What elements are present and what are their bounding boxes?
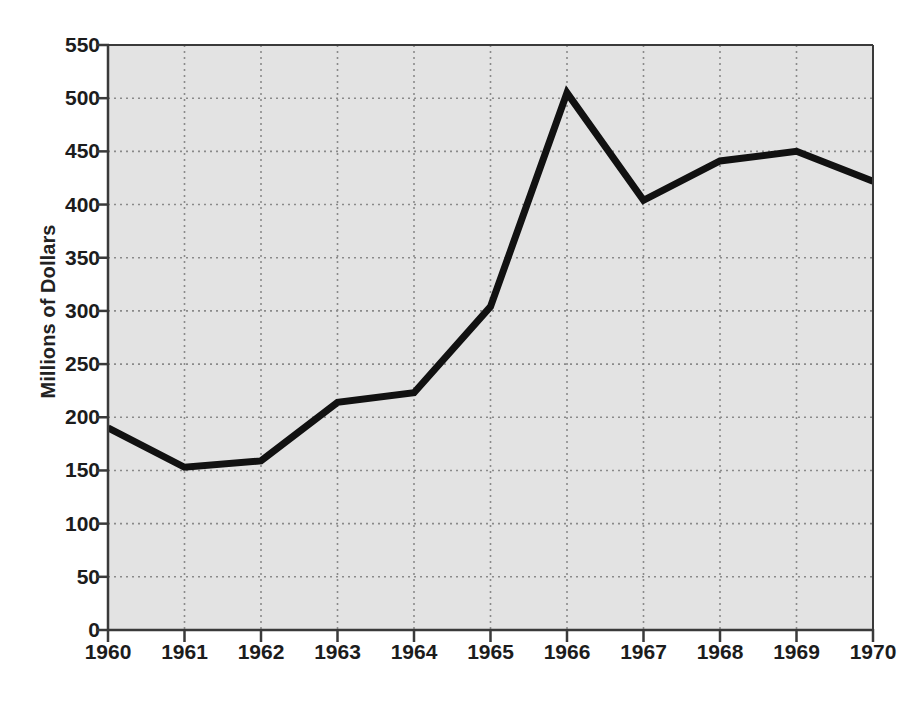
vertical-gridlines bbox=[185, 45, 797, 630]
x-axis-tick-label: 1969 bbox=[773, 640, 820, 664]
y-axis-tick-label: 300 bbox=[65, 299, 100, 323]
y-axis-tick-label: 500 bbox=[65, 86, 100, 110]
x-axis-tick-label: 1968 bbox=[697, 640, 744, 664]
y-axis-tick-labels: 050100150200250300350400450500550 bbox=[38, 45, 100, 630]
horizontal-gridlines bbox=[108, 98, 873, 577]
x-axis-tick-label: 1965 bbox=[467, 640, 514, 664]
x-axis-tick-label: 1966 bbox=[544, 640, 591, 664]
y-axis-tick-label: 400 bbox=[65, 193, 100, 217]
y-axis-tick-label: 50 bbox=[77, 565, 100, 589]
x-axis-tick-label: 1960 bbox=[85, 640, 132, 664]
y-axis-tick-label: 550 bbox=[65, 33, 100, 57]
y-axis-tick-label: 0 bbox=[88, 618, 100, 642]
y-axis-tick-label: 350 bbox=[65, 246, 100, 270]
plot-svg bbox=[108, 45, 873, 630]
y-axis-tick-label: 450 bbox=[65, 139, 100, 163]
line-chart-figure: Millions of Dollars 05010015020025030035… bbox=[0, 0, 924, 702]
y-axis-tick-label: 150 bbox=[65, 458, 100, 482]
y-axis-tick-label: 100 bbox=[65, 512, 100, 536]
x-axis-tick-label: 1970 bbox=[850, 640, 897, 664]
y-axis-tick-label: 200 bbox=[65, 405, 100, 429]
x-axis-tick-label: 1961 bbox=[161, 640, 208, 664]
plot-area bbox=[108, 45, 873, 630]
x-axis-tick-label: 1967 bbox=[620, 640, 667, 664]
x-axis-tick-label: 1963 bbox=[314, 640, 361, 664]
x-axis-tick-label: 1964 bbox=[391, 640, 438, 664]
x-axis-tick-label: 1962 bbox=[238, 640, 285, 664]
x-axis-tick-labels: 1960196119621963196419651966196719681969… bbox=[108, 640, 873, 680]
y-axis-tick-label: 250 bbox=[65, 352, 100, 376]
